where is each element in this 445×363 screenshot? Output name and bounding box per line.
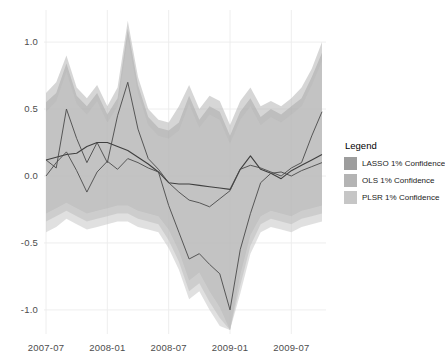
legend-title: Legend xyxy=(345,140,444,151)
y-axis-tick-label: -0.5 xyxy=(4,237,38,248)
legend-item-label: OLS 1% Confidence xyxy=(362,176,435,185)
legend-item[interactable]: OLS 1% Confidence xyxy=(344,173,444,188)
x-axis-tick-label: 2007-07 xyxy=(14,342,78,353)
legend-color-swatch xyxy=(344,157,357,170)
legend-items: LASSO 1% ConfidenceOLS 1% ConfidencePLSR… xyxy=(344,156,444,205)
y-axis-tick-label: 0.5 xyxy=(4,103,38,114)
x-axis-tick-label: 2008-07 xyxy=(137,342,201,353)
y-axis-tick-label: -1.0 xyxy=(4,304,38,315)
x-axis-tick-label: 2008-01 xyxy=(75,342,139,353)
legend-item[interactable]: PLSR 1% Confidence xyxy=(344,190,444,205)
legend-color-swatch xyxy=(344,191,357,204)
legend: Legend LASSO 1% ConfidenceOLS 1% Confide… xyxy=(344,140,444,207)
legend-item-label: PLSR 1% Confidence xyxy=(362,193,439,202)
y-axis-tick-label: 0.0 xyxy=(4,170,38,181)
legend-item-label: LASSO 1% Confidence xyxy=(362,159,445,168)
legend-color-swatch xyxy=(344,174,357,187)
x-axis-tick-label: 2009-01 xyxy=(198,342,262,353)
y-axis-tick-label: 1.0 xyxy=(4,36,38,47)
legend-item[interactable]: LASSO 1% Confidence xyxy=(344,156,444,171)
x-axis-tick-label: 2009-07 xyxy=(259,342,323,353)
